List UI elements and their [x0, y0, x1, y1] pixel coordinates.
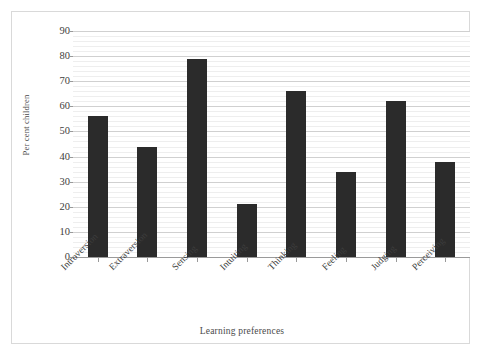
x-axis-title: Learning preferences	[0, 326, 484, 336]
major-gridline	[73, 232, 470, 233]
y-axis-tick-labels: 0102030405060708090	[44, 24, 70, 264]
x-axis-tick-mark	[147, 258, 148, 262]
y-axis-tick-label: 70	[44, 76, 70, 87]
y-axis-tick-label: 10	[44, 227, 70, 238]
y-axis-tick-mark	[69, 182, 73, 183]
y-axis-tick-mark	[69, 207, 73, 208]
major-gridline	[73, 56, 470, 57]
major-gridline	[73, 106, 470, 107]
bar	[386, 101, 406, 257]
x-axis-tick-mark	[346, 258, 347, 262]
x-axis-tick-mark	[197, 258, 198, 262]
bar-chart: Per cent children 0102030405060708090 Le…	[0, 0, 484, 364]
y-axis-tick-label: 40	[44, 151, 70, 162]
x-axis-tick-mark	[396, 258, 397, 262]
y-axis-tick-mark	[69, 157, 73, 158]
y-axis-tick-mark	[69, 31, 73, 32]
major-gridline	[73, 157, 470, 158]
major-gridline	[73, 207, 470, 208]
y-axis-tick-mark	[69, 81, 73, 82]
major-gridline	[73, 81, 470, 82]
y-axis-tick-mark	[69, 106, 73, 107]
major-gridline	[73, 182, 470, 183]
y-axis-tick-label: 90	[44, 26, 70, 37]
x-axis-tick-mark	[445, 258, 446, 262]
y-axis-tick-label: 20	[44, 202, 70, 213]
x-axis-tick-mark	[247, 258, 248, 262]
plot-area	[73, 31, 470, 257]
major-gridline	[73, 131, 470, 132]
y-axis-tick-label: 80	[44, 51, 70, 62]
y-axis-tick-mark	[69, 131, 73, 132]
y-axis-tick-label: 60	[44, 101, 70, 112]
y-axis-tick-label: 50	[44, 126, 70, 137]
y-axis-title: Per cent children	[21, 75, 31, 175]
bar	[286, 91, 306, 257]
y-axis-tick-label: 30	[44, 176, 70, 187]
bar	[187, 59, 207, 257]
x-axis-tick-mark	[296, 258, 297, 262]
minor-gridlines	[73, 31, 470, 257]
y-axis-tick-mark	[69, 232, 73, 233]
y-axis-tick-mark	[69, 56, 73, 57]
major-gridline	[73, 31, 470, 32]
x-axis-tick-mark	[98, 258, 99, 262]
